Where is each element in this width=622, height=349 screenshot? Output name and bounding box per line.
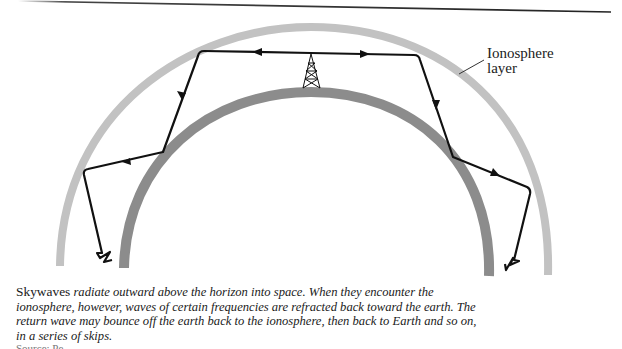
caption-body: radiate outward above the horizon into s… xyxy=(16,285,476,343)
ionosphere-label: Ionosphere layer xyxy=(487,46,554,76)
arrow-right-return-icon xyxy=(490,168,500,176)
transmitter-tower-icon xyxy=(303,54,320,88)
skywave-diagram xyxy=(0,0,622,280)
arrow-left-return-icon xyxy=(122,158,131,165)
arrow-right-down-icon xyxy=(432,100,440,110)
skywave-path-left xyxy=(84,51,311,262)
skywave-path-right xyxy=(311,53,530,270)
top-rule xyxy=(18,1,611,12)
label-leader-line xyxy=(459,60,484,74)
source-line: Source: Pe... xyxy=(16,343,72,349)
ionosphere-label-line2: layer xyxy=(487,61,554,76)
earth-arc xyxy=(124,92,489,276)
ionosphere-arc xyxy=(60,27,548,275)
figure-caption: Skywaves radiate outward above the horiz… xyxy=(16,285,486,343)
caption-lead: Skywaves xyxy=(16,284,70,299)
arrow-right-top-icon xyxy=(360,50,370,58)
ionosphere-label-line1: Ionosphere xyxy=(487,46,554,61)
arrow-left-top-icon xyxy=(252,48,262,56)
